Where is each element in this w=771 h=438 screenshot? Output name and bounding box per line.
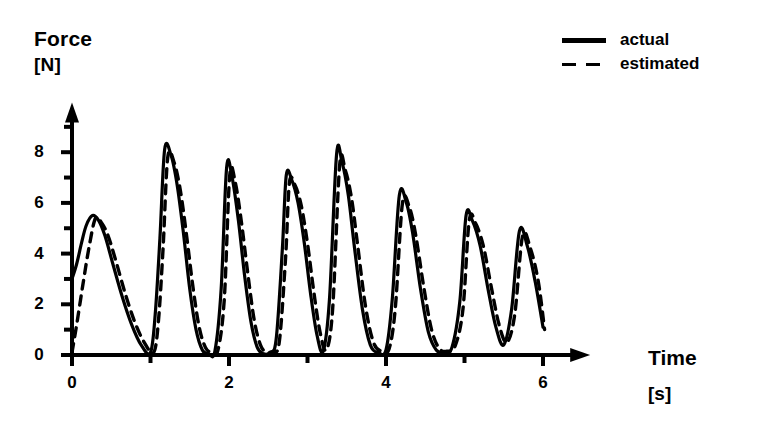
y-tick-label: 2 xyxy=(26,294,52,314)
y-axis-arrowhead xyxy=(65,103,79,123)
y-tick-label: 4 xyxy=(26,244,52,264)
x-tick-label: 6 xyxy=(530,373,556,393)
x-tick-label: 0 xyxy=(59,373,85,393)
x-axis-arrowhead xyxy=(570,348,590,362)
x-tick-label: 4 xyxy=(373,373,399,393)
y-tick-label: 0 xyxy=(26,345,52,365)
x-tick-label: 2 xyxy=(216,373,242,393)
y-tick-label: 8 xyxy=(26,142,52,162)
y-tick-label: 6 xyxy=(26,193,52,213)
force-time-chart-figure: Force [N] Time [s] actual estimated 0246… xyxy=(0,0,771,438)
series-line-estimated xyxy=(72,151,545,355)
